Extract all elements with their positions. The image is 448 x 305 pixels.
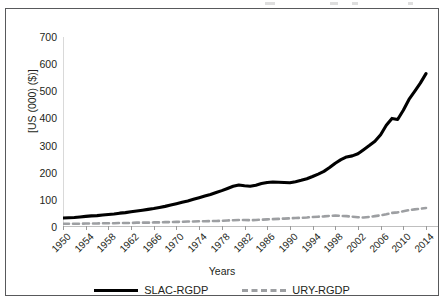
x-tick-mark bbox=[245, 226, 246, 230]
series-line-ury-rgdp bbox=[63, 208, 426, 224]
y-axis-title: [US (000) ($)] bbox=[26, 69, 38, 133]
x-tick-mark bbox=[63, 226, 64, 230]
x-axis-title: Years bbox=[6, 265, 438, 277]
y-tick-label: 200 bbox=[39, 167, 57, 179]
series-lines bbox=[63, 37, 438, 227]
y-tick-label: 400 bbox=[39, 112, 57, 124]
legend-swatch-solid-icon bbox=[94, 289, 138, 292]
y-tick-label: 700 bbox=[39, 31, 57, 43]
chart-frame: [US (000) ($)] 0100200300400500600700 19… bbox=[5, 8, 439, 296]
y-tick-label: 300 bbox=[39, 140, 57, 152]
chart-legend: SLAC-RGDP URY-RGDP bbox=[6, 284, 438, 296]
x-tick-mark bbox=[222, 226, 223, 230]
x-tick-mark bbox=[290, 226, 291, 230]
x-tick-mark bbox=[358, 226, 359, 230]
legend-item-ury: URY-RGDP bbox=[242, 284, 349, 296]
legend-item-slac: SLAC-RGDP bbox=[94, 284, 208, 296]
plot-area: 0100200300400500600700 bbox=[63, 37, 438, 227]
x-tick-mark bbox=[426, 226, 427, 230]
legend-label-ury: URY-RGDP bbox=[292, 284, 349, 296]
y-tick-label: 100 bbox=[39, 194, 57, 206]
x-tick-mark bbox=[313, 226, 314, 230]
x-tick-mark bbox=[267, 226, 268, 230]
scan-artifact-strip bbox=[0, 0, 448, 7]
x-tick-mark bbox=[199, 226, 200, 230]
x-tick-mark bbox=[131, 226, 132, 230]
series-line-slac-rgdp bbox=[63, 74, 426, 218]
x-tick-mark bbox=[154, 226, 155, 230]
y-tick-label: 500 bbox=[39, 85, 57, 97]
x-tick-mark bbox=[86, 226, 87, 230]
y-tick-label: 600 bbox=[39, 58, 57, 70]
legend-label-slac: SLAC-RGDP bbox=[144, 284, 208, 296]
x-tick-mark bbox=[335, 226, 336, 230]
y-tick-label: 0 bbox=[51, 221, 57, 233]
x-tick-mark bbox=[381, 226, 382, 230]
x-tick-mark bbox=[403, 226, 404, 230]
x-tick-mark bbox=[176, 226, 177, 230]
legend-swatch-dashed-icon bbox=[242, 289, 286, 292]
x-tick-mark bbox=[108, 226, 109, 230]
figure-image: [US (000) ($)] 0100200300400500600700 19… bbox=[0, 0, 448, 305]
